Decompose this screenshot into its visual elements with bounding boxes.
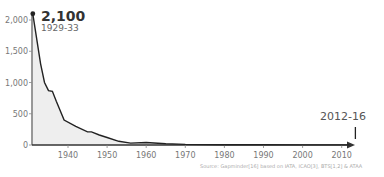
x-tick-label: 1990 bbox=[253, 151, 273, 160]
data-line bbox=[33, 14, 350, 145]
x-tick-label: 2010 bbox=[332, 151, 352, 160]
x-tick-label: 1980 bbox=[214, 151, 234, 160]
y-tick-label: 0 bbox=[23, 141, 28, 150]
x-tick-label: 1960 bbox=[136, 151, 156, 160]
y-tick-label: 500 bbox=[13, 110, 28, 119]
x-tick-label: 2000 bbox=[292, 151, 312, 160]
y-tick-label: 1,500 bbox=[5, 47, 28, 56]
y-tick-label: 2,000 bbox=[5, 16, 28, 25]
x-tick-label: 1940 bbox=[58, 151, 78, 160]
end-period-label: 2012-16 bbox=[320, 110, 366, 123]
x-tick-label: 1950 bbox=[97, 151, 117, 160]
source-note: Source: Gapminder[16] based on IATA, ICA… bbox=[200, 163, 362, 169]
peak-value-label: 2,100 bbox=[41, 8, 85, 24]
y-tick-label: 1,000 bbox=[5, 79, 28, 88]
peak-period-label: 1929-33 bbox=[41, 23, 79, 33]
area-fill bbox=[33, 14, 350, 145]
x-tick-label: 1970 bbox=[175, 151, 195, 160]
peak-point bbox=[30, 11, 35, 16]
